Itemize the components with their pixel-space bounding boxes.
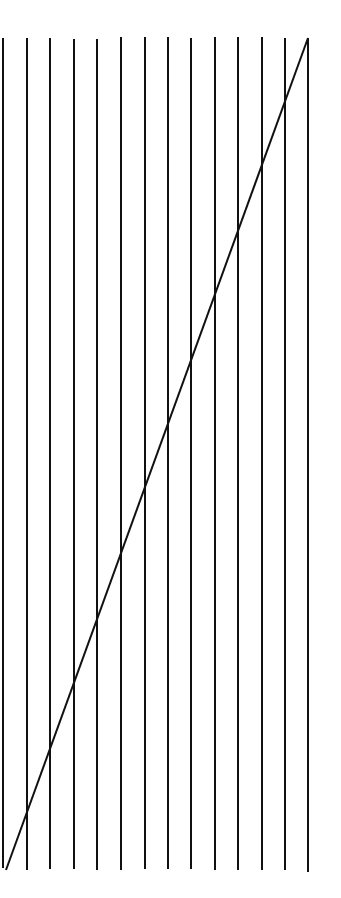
parallel-lines-diagram [0,0,341,898]
